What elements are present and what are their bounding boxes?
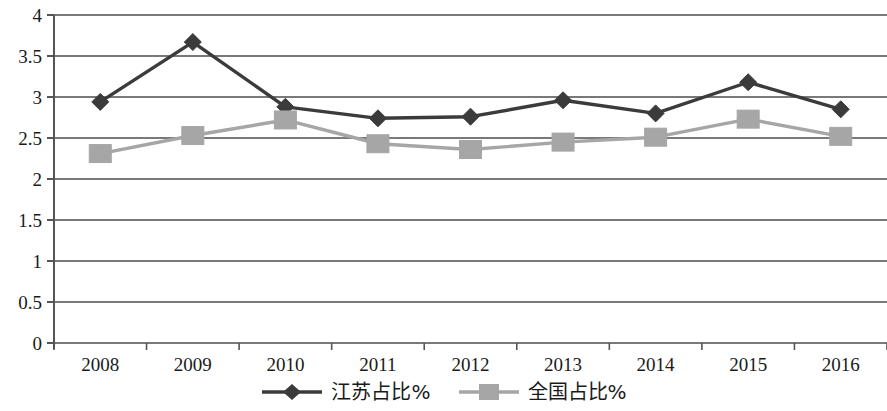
data-point-marker bbox=[460, 140, 482, 158]
legend-square-icon bbox=[457, 382, 521, 402]
y-axis-tick-label: 3.5 bbox=[0, 47, 42, 66]
legend-item-label: 江苏占比% bbox=[331, 382, 430, 402]
y-axis-tick-label: 1.5 bbox=[0, 211, 42, 230]
diamond-icon bbox=[283, 384, 301, 400]
data-point-marker bbox=[740, 74, 757, 91]
x-axis-tick-label: 2011 bbox=[359, 355, 396, 374]
chart-legend: 江苏占比%全国占比% bbox=[0, 382, 887, 402]
series-line bbox=[100, 42, 840, 118]
data-point-marker bbox=[555, 92, 572, 109]
y-axis-tick-label: 1 bbox=[0, 252, 42, 271]
data-point-marker bbox=[462, 108, 479, 125]
y-axis-tick-label: 0.5 bbox=[0, 293, 42, 312]
square-icon bbox=[479, 384, 499, 400]
y-axis-tick-label: 0 bbox=[0, 334, 42, 353]
y-axis-tick-label: 2.5 bbox=[0, 129, 42, 148]
legend-item-label: 全国占比% bbox=[528, 382, 627, 402]
data-point-marker bbox=[832, 101, 849, 118]
plot-area bbox=[0, 0, 887, 411]
y-axis-tick-label: 4 bbox=[0, 6, 42, 25]
line-chart: 00.511.522.533.54 2008200920102011201220… bbox=[0, 0, 887, 411]
legend-diamond-icon bbox=[260, 382, 324, 402]
legend-item[interactable]: 江苏占比% bbox=[260, 382, 430, 402]
x-axis-tick-label: 2008 bbox=[81, 355, 119, 374]
x-axis-tick-label: 2012 bbox=[452, 355, 490, 374]
data-point-marker bbox=[369, 110, 386, 127]
data-point-marker bbox=[92, 93, 109, 110]
data-point-marker bbox=[182, 127, 204, 145]
data-point-marker bbox=[274, 111, 296, 129]
x-axis-tick-label: 2014 bbox=[637, 355, 675, 374]
x-axis-tick-label: 2013 bbox=[544, 355, 582, 374]
data-point-marker bbox=[830, 127, 852, 145]
y-axis-tick-label: 2 bbox=[0, 170, 42, 189]
data-point-marker bbox=[645, 128, 667, 146]
data-point-marker bbox=[89, 145, 111, 163]
x-axis-tick-label: 2010 bbox=[266, 355, 304, 374]
x-axis-tick-label: 2015 bbox=[729, 355, 767, 374]
x-axis-tick-label: 2016 bbox=[822, 355, 860, 374]
data-point-marker bbox=[737, 110, 759, 128]
y-axis-tick-label: 3 bbox=[0, 88, 42, 107]
data-point-marker bbox=[552, 133, 574, 151]
x-axis-tick-label: 2009 bbox=[174, 355, 212, 374]
data-point-marker bbox=[367, 135, 389, 153]
data-point-marker bbox=[647, 105, 664, 122]
legend-item[interactable]: 全国占比% bbox=[457, 382, 627, 402]
